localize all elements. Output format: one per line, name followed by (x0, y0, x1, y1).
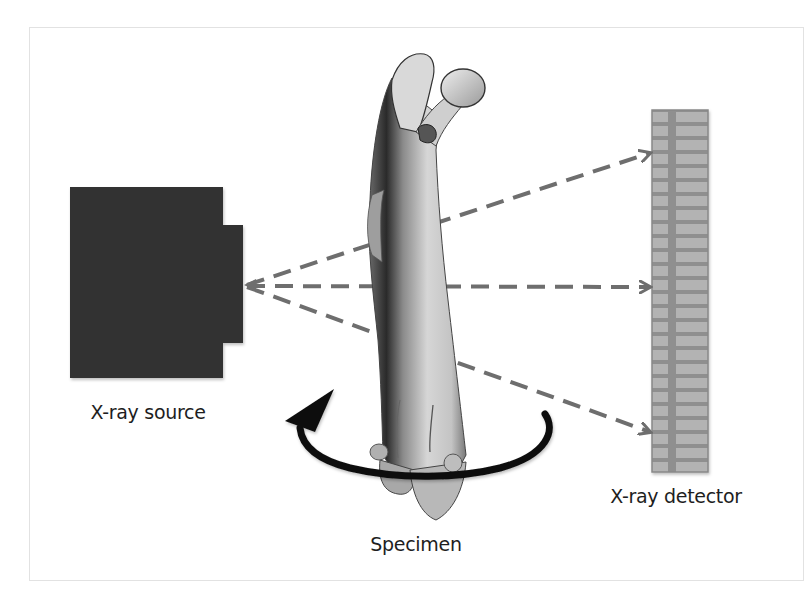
xray-detector-icon (652, 110, 708, 472)
beam-upper (247, 153, 650, 285)
xray-source-icon (70, 187, 243, 378)
specimen-label: Specimen (370, 533, 461, 555)
xray-source-label: X-ray source (90, 401, 205, 423)
xray-detector-label: X-ray detector (610, 485, 742, 507)
specimen-bone-icon (368, 54, 486, 520)
beam-middle (247, 286, 650, 287)
